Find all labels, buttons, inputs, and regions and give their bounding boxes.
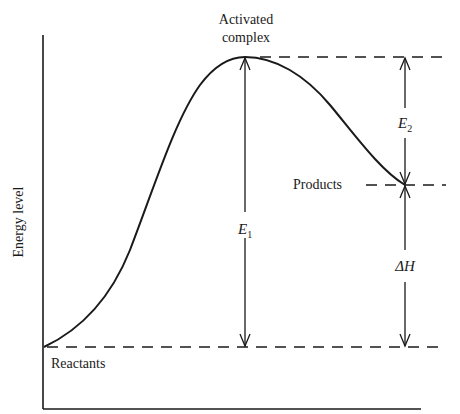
e2-label: E2: [397, 115, 412, 134]
e1-label: E1: [237, 221, 252, 240]
products-label: Products: [293, 177, 342, 192]
y-axis-label: Energy level: [11, 186, 26, 257]
delta-h-label: ΔH: [394, 258, 416, 274]
energy-diagram: Energy level E1 E2 ΔH Activated complex …: [0, 0, 460, 414]
reaction-curve: [44, 57, 405, 347]
activated-complex-label-line1: Activated: [219, 12, 273, 27]
reactants-label: Reactants: [51, 356, 105, 371]
activated-complex-label-line2: complex: [222, 30, 270, 45]
e1-arrow: [240, 58, 250, 346]
